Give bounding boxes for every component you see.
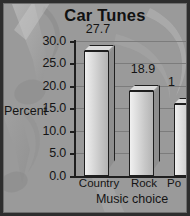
chart-screenshot: Car Tunes 30.0 25.0 20.0 15.0 10.0 5.0 0… bbox=[0, 0, 190, 216]
outer-frame-border bbox=[0, 0, 190, 216]
